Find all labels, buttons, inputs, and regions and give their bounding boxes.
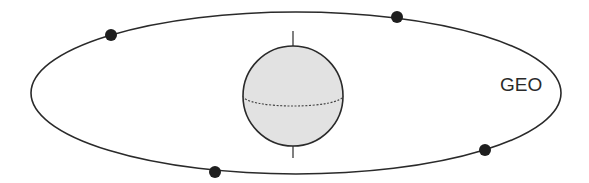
- satellite-2: [391, 11, 403, 23]
- orbit-label: GEO: [500, 74, 542, 95]
- satellite-1: [105, 29, 117, 41]
- geo-orbit-diagram: GEO: [0, 0, 589, 183]
- satellite-3: [479, 144, 491, 156]
- earth-globe: [243, 46, 343, 146]
- satellite-4: [209, 166, 221, 178]
